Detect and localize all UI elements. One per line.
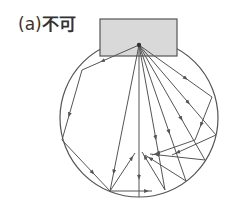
arrow-icon [168, 129, 169, 132]
ray [139, 45, 216, 155]
arrow-icon [131, 158, 132, 159]
arrow-icon [184, 77, 185, 78]
arrow-icon [180, 116, 181, 118]
arrow-icon [92, 172, 93, 173]
source-point [137, 43, 141, 47]
arrow-icon [155, 135, 156, 138]
arrow-icon [103, 61, 104, 62]
arrow-icon [150, 158, 151, 159]
arrow-icon [114, 169, 115, 172]
ray-segment [195, 97, 212, 140]
rays [62, 45, 216, 197]
ray-segment [139, 45, 216, 135]
ray-segment [62, 140, 110, 191]
ray-segment [139, 45, 186, 181]
ray [139, 45, 186, 181]
ray-diagram [0, 0, 239, 216]
ray [62, 45, 139, 191]
arrow-icon [187, 101, 189, 103]
ray [139, 45, 212, 155]
source-box [100, 19, 177, 56]
ray-segment [62, 70, 82, 140]
